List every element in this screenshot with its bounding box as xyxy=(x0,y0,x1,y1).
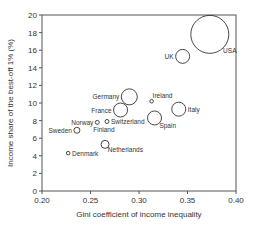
y-tick-label: 12 xyxy=(28,81,37,90)
bubble-labels: USAUKGermanyIrelandFranceItalySpainNorwa… xyxy=(48,47,237,157)
bubble-switzerland xyxy=(105,119,109,123)
x-axis-label: Gini coefficient of income inequality xyxy=(76,210,201,219)
x-tick-label: 0.25 xyxy=(83,196,99,205)
bubble-chart: 02468101214161820 0.200.250.300.350.40 U… xyxy=(0,0,258,229)
y-tick-label: 20 xyxy=(28,11,37,20)
bubble-sweden xyxy=(74,127,80,133)
bubble-series xyxy=(66,15,228,155)
bubble-denmark xyxy=(66,151,70,155)
x-tick-label: 0.20 xyxy=(34,196,50,205)
y-tick-label: 6 xyxy=(33,134,38,143)
bubble-label: Finland xyxy=(93,126,115,133)
bubble-label: Denmark xyxy=(72,150,99,157)
bubble-uk xyxy=(176,49,190,63)
y-tick-label: 14 xyxy=(28,64,37,73)
bubble-label: Ireland xyxy=(153,92,173,99)
y-axis-ticks: 02468101214161820 xyxy=(28,11,42,196)
x-tick-label: 0.35 xyxy=(180,196,196,205)
y-tick-label: 0 xyxy=(33,187,38,196)
bubble-label: Italy xyxy=(188,106,201,114)
bubble-ireland xyxy=(150,99,154,103)
y-tick-label: 16 xyxy=(28,46,37,55)
bubble-label: Germany xyxy=(93,93,120,101)
plot-frame xyxy=(42,15,236,191)
bubble-norway xyxy=(95,120,99,124)
bubble-label: France xyxy=(91,107,112,114)
bubble-label: UK xyxy=(165,53,175,60)
bubble-label: USA xyxy=(223,47,237,54)
bubble-label: Sweden xyxy=(48,127,72,134)
y-tick-label: 18 xyxy=(28,29,37,38)
y-tick-label: 8 xyxy=(33,117,38,126)
bubble-label: Spain xyxy=(159,122,176,130)
bubble-label: Netherlands xyxy=(108,146,144,153)
bubble-germany xyxy=(121,89,137,105)
y-axis-label: Income share of the best-off 1% (%) xyxy=(6,39,15,167)
y-tick-label: 10 xyxy=(28,99,37,108)
bubble-italy xyxy=(172,102,186,116)
bubble-france xyxy=(114,103,128,117)
x-tick-label: 0.40 xyxy=(228,196,244,205)
bubble-label: Switzerland xyxy=(111,118,145,125)
x-axis-ticks: 0.200.250.300.350.40 xyxy=(34,191,244,205)
y-tick-label: 4 xyxy=(33,152,38,161)
y-tick-label: 2 xyxy=(33,169,38,178)
bubble-label: Norway xyxy=(71,119,94,127)
x-tick-label: 0.30 xyxy=(131,196,147,205)
